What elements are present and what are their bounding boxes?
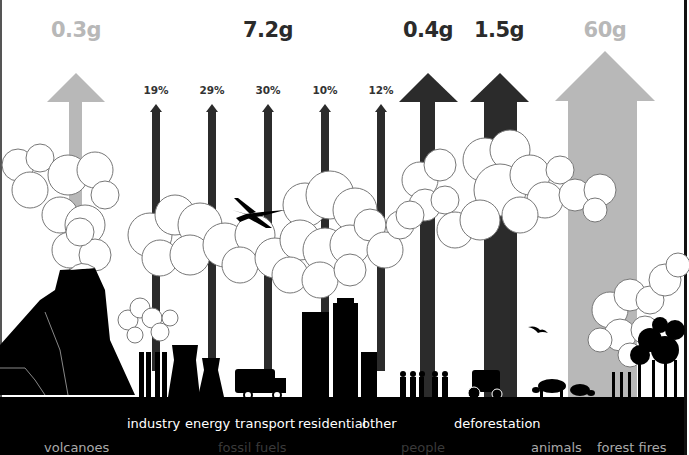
people-icon bbox=[400, 371, 448, 397]
right-frame-line bbox=[684, 0, 687, 455]
forest-fires-value: 60g bbox=[584, 18, 627, 42]
emissions-infographic: 0.3g 7.2g 0.4g 1.5g 60g 19% 29% 30% 10% … bbox=[0, 0, 689, 455]
volcanoes-value: 0.3g bbox=[51, 18, 101, 42]
bird-icon bbox=[528, 326, 548, 333]
industry-label: industry bbox=[127, 416, 180, 431]
cow-icon bbox=[532, 379, 566, 397]
people-label: people bbox=[401, 440, 445, 455]
forest-fires-label: forest fires bbox=[597, 440, 667, 455]
deforestation-label: deforestation bbox=[454, 416, 541, 431]
volcano-icon bbox=[0, 263, 135, 395]
residential-share: 10% bbox=[312, 84, 337, 96]
skyscraper-icon bbox=[302, 298, 377, 402]
fossil-fuels-label: fossil fuels bbox=[218, 440, 287, 455]
scene-illustration bbox=[0, 0, 689, 455]
deforestation-value: 1.5g bbox=[474, 18, 524, 42]
other-label: other bbox=[362, 416, 397, 431]
transport-label: transport bbox=[235, 416, 295, 431]
residential-label: residential bbox=[298, 416, 366, 431]
industry-share: 19% bbox=[143, 84, 168, 96]
people-value: 0.4g bbox=[403, 18, 453, 42]
other-share: 12% bbox=[368, 84, 393, 96]
fossil-fuels-value: 7.2g bbox=[243, 18, 293, 42]
animals-label: animals bbox=[531, 440, 582, 455]
transport-share: 30% bbox=[255, 84, 280, 96]
volcanoes-label: volcanoes bbox=[44, 440, 109, 455]
energy-label: energy bbox=[185, 416, 230, 431]
energy-share: 29% bbox=[199, 84, 224, 96]
truck-icon bbox=[235, 369, 286, 399]
